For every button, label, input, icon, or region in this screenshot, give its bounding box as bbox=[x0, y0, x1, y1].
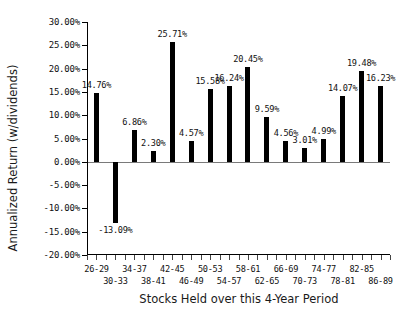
y-axis-tick-label: -5.00% bbox=[0, 180, 80, 190]
plot-area: 14.76%-13.09%6.86%2.30%25.71%4.57%15.58%… bbox=[87, 22, 390, 255]
bar-value-label: 25.71% bbox=[149, 29, 195, 39]
y-axis-tick bbox=[82, 45, 88, 46]
y-axis-tick-label: 15.00% bbox=[0, 87, 80, 97]
y-axis-tick bbox=[82, 139, 88, 140]
y-axis-tick-label: -10.00% bbox=[0, 203, 80, 213]
x-axis-tick bbox=[106, 255, 107, 260]
bar-value-label: 14.07% bbox=[320, 83, 366, 93]
x-axis-tick bbox=[390, 255, 391, 260]
x-axis-tick bbox=[220, 255, 221, 260]
x-axis-tick-label: 86-89 bbox=[359, 276, 403, 286]
x-axis-tick bbox=[210, 255, 211, 260]
y-axis-tick-label: 5.00% bbox=[0, 134, 80, 144]
zero-baseline bbox=[87, 162, 390, 163]
bar-value-label: 14.76% bbox=[73, 80, 119, 90]
bar bbox=[378, 86, 383, 162]
x-axis-tick bbox=[267, 255, 268, 260]
y-axis-tick bbox=[82, 232, 88, 233]
y-axis-tick-label: -20.00% bbox=[0, 250, 80, 260]
x-axis-tick bbox=[324, 255, 325, 260]
x-axis-tick bbox=[295, 255, 296, 260]
x-axis-tick bbox=[125, 255, 126, 260]
bar-value-label: 20.45% bbox=[225, 54, 271, 64]
x-axis-tick bbox=[381, 255, 382, 260]
x-axis-title: Stocks Held over this 4-Year Period bbox=[88, 292, 390, 306]
x-axis-tick bbox=[153, 255, 154, 260]
y-axis-tick bbox=[82, 92, 88, 93]
x-axis-tick bbox=[115, 255, 116, 260]
x-axis-tick bbox=[371, 255, 372, 260]
bar bbox=[94, 93, 99, 162]
x-axis-tick bbox=[182, 255, 183, 260]
x-axis-tick bbox=[257, 255, 258, 260]
x-axis-tick bbox=[163, 255, 164, 260]
y-axis-tick bbox=[82, 208, 88, 209]
x-axis-tick bbox=[239, 255, 240, 260]
bar bbox=[113, 162, 118, 223]
bar-value-label: 16.23% bbox=[358, 73, 404, 83]
bar-value-label: 16.24% bbox=[206, 73, 252, 83]
bar-value-label: 3.01% bbox=[282, 135, 328, 145]
x-axis-tick bbox=[343, 255, 344, 260]
x-axis-tick bbox=[333, 255, 334, 260]
y-axis-tick bbox=[82, 22, 88, 23]
bar bbox=[227, 86, 232, 162]
x-axis-tick bbox=[191, 255, 192, 260]
bar-value-label: 6.86% bbox=[111, 117, 157, 127]
x-axis-tick bbox=[305, 255, 306, 260]
y-axis-tick bbox=[82, 185, 88, 186]
bar-value-label: 19.48% bbox=[339, 58, 385, 68]
bar-value-label: 4.57% bbox=[168, 128, 214, 138]
x-axis-tick bbox=[201, 255, 202, 260]
x-axis-tick bbox=[314, 255, 315, 260]
bar bbox=[151, 151, 156, 162]
y-axis-tick-label: 25.00% bbox=[0, 40, 80, 50]
y-axis-tick-label: 20.00% bbox=[0, 64, 80, 74]
x-axis-tick bbox=[362, 255, 363, 260]
y-axis-tick-label: 10.00% bbox=[0, 110, 80, 120]
y-axis-tick-label: -15.00% bbox=[0, 227, 80, 237]
y-axis-tick bbox=[82, 162, 88, 163]
bar-value-label: 2.30% bbox=[130, 138, 176, 148]
x-axis-tick-label: 82-85 bbox=[340, 264, 384, 274]
bar bbox=[208, 89, 213, 162]
y-axis-tick-label: 0.00% bbox=[0, 157, 80, 167]
x-axis-tick bbox=[276, 255, 277, 260]
x-axis-tick bbox=[248, 255, 249, 260]
bar bbox=[189, 141, 194, 162]
y-axis-tick bbox=[82, 69, 88, 70]
x-axis-tick bbox=[172, 255, 173, 260]
chart-canvas: Annualized Return (w/dividends) 14.76%-1… bbox=[0, 0, 419, 316]
x-axis-tick bbox=[96, 255, 97, 260]
bar-value-label: 4.99% bbox=[301, 126, 347, 136]
y-axis-tick-label: 30.00% bbox=[0, 17, 80, 27]
x-axis-tick bbox=[286, 255, 287, 260]
bar bbox=[302, 148, 307, 162]
bar-value-label: -13.09% bbox=[92, 225, 138, 235]
x-axis-tick bbox=[87, 255, 88, 260]
bar bbox=[264, 117, 269, 162]
x-axis-tick bbox=[144, 255, 145, 260]
x-axis-tick bbox=[229, 255, 230, 260]
x-axis-tick bbox=[134, 255, 135, 260]
x-axis-tick bbox=[352, 255, 353, 260]
y-axis-tick bbox=[82, 115, 88, 116]
bar-value-label: 9.59% bbox=[244, 104, 290, 114]
